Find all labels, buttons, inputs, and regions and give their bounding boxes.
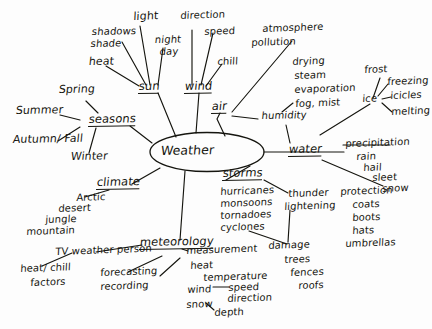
node-protection[interactable]: protection — [340, 184, 393, 198]
node-roofs[interactable]: roofs — [298, 279, 324, 292]
center-node[interactable]: Weather — [150, 132, 265, 172]
label-roofs: roofs — [298, 279, 324, 291]
branch-wind[interactable]: wind — [184, 80, 213, 94]
node-heat-chill[interactable]: heat/ chill — [20, 261, 71, 275]
node-freezing[interactable]: freezing — [387, 75, 429, 88]
node-measure-direction[interactable]: direction — [227, 291, 272, 304]
label-lightening: lightening — [284, 199, 336, 212]
label-direction: direction — [180, 8, 225, 21]
edge-seasons-summer — [60, 115, 80, 120]
node-light[interactable]: light — [133, 10, 159, 24]
node-steam[interactable]: steam — [294, 69, 326, 82]
label-damage: damage — [268, 239, 310, 251]
node-humidity[interactable]: humidity — [261, 109, 307, 122]
edge-sun-heat — [106, 66, 139, 86]
label-drying: drying — [292, 55, 325, 67]
label-sun: sun — [138, 79, 160, 93]
node-measure-snow[interactable]: snow — [186, 298, 213, 311]
label-factors: factors — [30, 276, 66, 288]
node-heat[interactable]: heat — [88, 56, 115, 69]
node-trees[interactable]: trees — [284, 253, 311, 266]
node-fog-mist[interactable]: fog, mist — [295, 96, 341, 109]
node-measure-wind[interactable]: wind — [187, 283, 212, 296]
node-spring[interactable]: Spring — [58, 83, 96, 97]
node-measure-heat[interactable]: heat — [190, 259, 214, 272]
node-mountain[interactable]: mountain — [26, 224, 75, 237]
label-hats: hats — [352, 224, 375, 236]
branch-seasons[interactable]: seasons — [88, 112, 137, 126]
label-evaporation: evaporation — [294, 82, 356, 95]
branch-climate[interactable]: climate — [96, 175, 141, 189]
node-frost[interactable]: frost — [364, 63, 388, 76]
label-seasons: seasons — [88, 111, 137, 126]
label-water: water — [288, 141, 323, 156]
node-chill[interactable]: chill — [217, 55, 238, 68]
node-forecasting[interactable]: forecasting — [100, 265, 158, 279]
label-chill: chill — [217, 55, 238, 67]
label-tornadoes: tornadoes — [220, 208, 272, 221]
node-fences[interactable]: fences — [290, 266, 324, 279]
node-speed[interactable]: speed — [204, 25, 235, 38]
label-heat: heat — [88, 55, 115, 68]
node-boots[interactable]: boots — [352, 211, 381, 224]
label-steam: steam — [294, 69, 326, 81]
node-cyclones[interactable]: cyclones — [220, 220, 265, 233]
label-day: day — [159, 46, 179, 59]
node-lightening[interactable]: lightening — [284, 199, 336, 213]
label-ice: ice — [362, 92, 377, 104]
node-recording[interactable]: recording — [100, 279, 149, 292]
edge-air-atmosphere — [232, 41, 292, 112]
branch-sun[interactable]: sun — [138, 80, 160, 94]
center-node-label: Weather — [160, 143, 215, 159]
node-measure-depth[interactable]: depth — [214, 306, 244, 319]
node-factors[interactable]: factors — [30, 276, 66, 289]
node-icicles[interactable]: icicles — [390, 89, 422, 102]
label-atmosphere: atmosphere — [262, 21, 324, 34]
branch-air[interactable]: air — [211, 100, 228, 114]
edge-wind-speed — [201, 33, 213, 85]
label-fences: fences — [290, 266, 324, 278]
label-mountain: mountain — [26, 224, 75, 237]
label-fog-mist: fog, mist — [295, 96, 341, 109]
edge-weather-wind — [196, 93, 199, 133]
node-atmosphere[interactable]: atmosphere — [262, 21, 324, 35]
label-weather: Weather — [160, 142, 215, 158]
edge-weather-seasons — [130, 126, 152, 143]
label-cyclones: cyclones — [220, 220, 265, 233]
label-thunder: thunder — [288, 187, 329, 199]
node-night-day[interactable]: nightday — [153, 34, 182, 59]
label-shade: shade — [90, 38, 122, 50]
label-umbrellas: umbrellas — [345, 236, 396, 249]
node-summer[interactable]: Summer — [15, 104, 64, 118]
node-melting[interactable]: melting — [391, 105, 430, 118]
node-drying[interactable]: drying — [292, 55, 325, 68]
node-umbrellas[interactable]: umbrellas — [345, 236, 396, 250]
mind-map-canvas: shadowsshade light nightday heat sun dir… — [0, 0, 432, 329]
label-frost: frost — [364, 63, 388, 75]
label-coats: coats — [352, 198, 380, 210]
label-speed: speed — [204, 25, 235, 37]
node-winter[interactable]: Winter — [70, 150, 108, 164]
label-trees: trees — [284, 253, 310, 265]
node-damage[interactable]: damage — [268, 239, 310, 252]
label-measure-wind: wind — [187, 283, 212, 295]
node-hats[interactable]: hats — [352, 224, 375, 237]
label-rain: rain — [356, 150, 376, 162]
node-precipitation[interactable]: precipitation — [345, 136, 410, 150]
node-thunder[interactable]: thunder — [288, 187, 329, 200]
label-hurricanes: hurricanes — [220, 184, 275, 197]
node-ice[interactable]: ice — [362, 92, 377, 104]
node-autumn-fall[interactable]: Autumn/ Fall — [12, 133, 84, 147]
node-evaporation[interactable]: evaporation — [294, 82, 356, 96]
label-protection: protection — [340, 184, 393, 197]
node-measurement[interactable]: measurement — [186, 243, 258, 257]
label-humidity: humidity — [261, 109, 307, 121]
node-shadows-shade[interactable]: shadowsshade — [90, 25, 137, 50]
node-coats[interactable]: coats — [352, 198, 380, 211]
node-direction[interactable]: direction — [180, 8, 225, 21]
label-measurement: measurement — [186, 243, 258, 256]
node-pollution[interactable]: pollution — [251, 35, 296, 48]
label-shadows: shadows — [91, 25, 136, 37]
label-forecasting: forecasting — [100, 265, 158, 278]
branch-water[interactable]: water — [288, 142, 323, 156]
